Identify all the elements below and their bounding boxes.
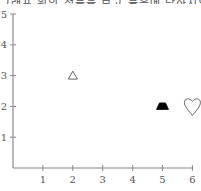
x-tick-label: 6 xyxy=(189,174,195,185)
y-tick-label: 5 xyxy=(1,9,7,20)
data-point-trapezoid xyxy=(157,103,169,110)
x-tick-label: 2 xyxy=(70,174,76,185)
x-tick-label: 5 xyxy=(159,174,165,185)
y-tick-label: 2 xyxy=(1,101,7,112)
y-tick-label: 4 xyxy=(1,39,7,50)
scatter-chart: 12345612345 xyxy=(0,0,201,191)
x-tick-label: 4 xyxy=(129,174,135,185)
y-tick-label: 1 xyxy=(1,132,7,143)
data-point-triangle xyxy=(68,71,77,79)
x-tick-label: 3 xyxy=(100,174,106,185)
x-tick-label: 1 xyxy=(40,174,46,185)
data-point-heart xyxy=(184,99,200,116)
y-tick-label: 3 xyxy=(1,70,7,81)
